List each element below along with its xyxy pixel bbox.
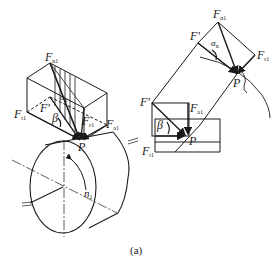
label-right-ft1: Ft1 <box>142 145 154 158</box>
label-left-fr1: Fr1 <box>82 115 94 128</box>
label-left-fprime: F' <box>40 102 50 114</box>
label-n1: n1 <box>84 188 93 200</box>
label-left-fn1: Fn1 <box>45 51 58 64</box>
label-left-alpha-n: αn <box>60 94 67 103</box>
label-right-fr1: Fr1 <box>257 49 269 62</box>
label-left-fa1: Fa1 <box>106 118 119 131</box>
left-beta-arc <box>58 118 61 127</box>
label-right-fn1: Fn1 <box>213 8 226 21</box>
label-right-p-top: P <box>233 77 240 89</box>
gear-cylinder <box>12 132 138 237</box>
label-right-alpha-n: αn <box>211 39 219 49</box>
label-left-ft1: Ft1 <box>14 108 26 121</box>
label-right-fprime-bottom: F' <box>140 96 150 108</box>
label-right-fprime-top: F' <box>190 30 200 42</box>
label-right-p-bottom: P <box>189 135 196 147</box>
label-right-fa1: Fa1 <box>190 102 203 115</box>
label-right-beta: β <box>157 119 163 131</box>
gear-force-diagram <box>0 0 280 268</box>
right-beta-arc <box>167 122 169 134</box>
label-left-p: P <box>78 141 85 153</box>
figure-caption: (a) <box>130 244 142 256</box>
label-left-beta: β <box>52 112 58 124</box>
